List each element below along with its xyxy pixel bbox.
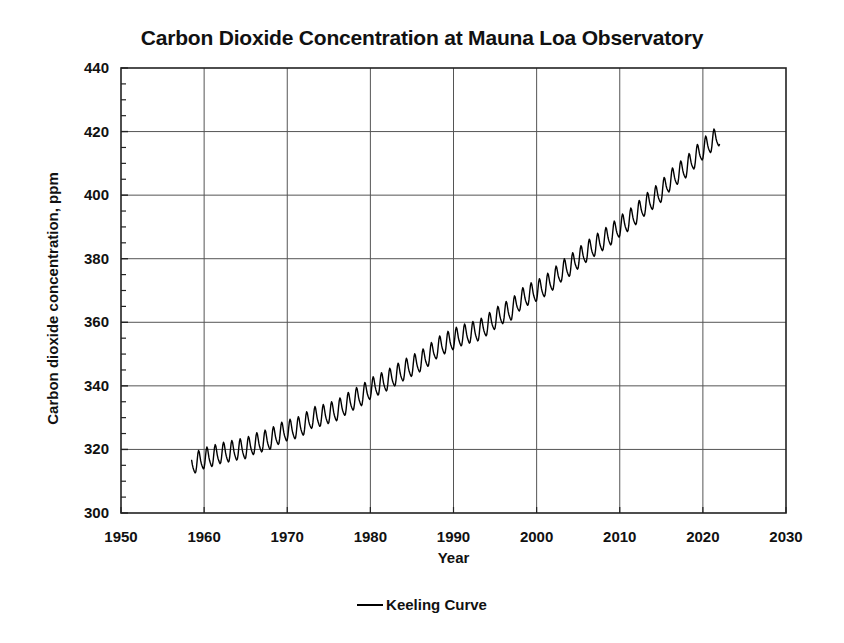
y-tick-label: 380 [84, 250, 109, 267]
x-tick-label: 1960 [187, 528, 220, 545]
x-tick-label: 1980 [354, 528, 387, 545]
legend-entry-keeling-curve: Keeling Curve [357, 596, 487, 613]
y-axis-tick-labels: 300320340360380400420440 [84, 59, 109, 521]
chart-legend: Keeling Curve [0, 596, 844, 613]
y-tick-label: 400 [84, 186, 109, 203]
y-tick-label: 360 [84, 313, 109, 330]
x-axis-tick-labels: 195019601970198019902000201020202030 [104, 528, 802, 545]
x-tick-label: 1950 [104, 528, 137, 545]
data-series-keeling-curve [192, 129, 720, 473]
y-tick-label: 320 [84, 440, 109, 457]
legend-line-swatch [357, 604, 383, 606]
y-tick-label: 440 [84, 59, 109, 76]
x-tick-label: 1970 [271, 528, 304, 545]
x-axis-title: Year [121, 549, 786, 566]
series-line-keeling-curve [192, 129, 720, 473]
x-tick-label: 1990 [437, 528, 470, 545]
x-tick-label: 2010 [603, 528, 636, 545]
y-axis-title: Carbon dioxide concentration, ppm [44, 99, 61, 499]
legend-label: Keeling Curve [386, 596, 487, 613]
y-tick-label: 420 [84, 123, 109, 140]
x-tick-label: 2000 [520, 528, 553, 545]
y-tick-label: 300 [84, 504, 109, 521]
gridlines [121, 68, 786, 513]
chart-figure: Carbon Dioxide Concentration at Mauna Lo… [0, 0, 844, 643]
x-tick-label: 2020 [686, 528, 719, 545]
y-tick-label: 340 [84, 377, 109, 394]
x-tick-label: 2030 [769, 528, 802, 545]
plot-area: 195019601970198019902000201020202030 300… [0, 0, 844, 643]
